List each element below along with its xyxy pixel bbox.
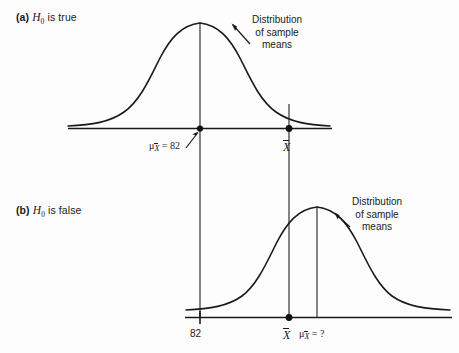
panel-a-label: (a) H0 is true [16,11,77,26]
panel-b-letter: (b) [16,204,30,216]
distribution-callout-arrow-panel-b [335,213,350,227]
statistics-figure: (a) H0 is true (b) H0 is false Distribut… [0,0,459,353]
panel-b-suffix: is false [48,204,81,216]
figure-canvas [0,0,459,353]
panel-a-h: H0 [32,11,44,23]
mu-callout-arrow-panel-a [186,131,199,148]
xbar-glyph-b: X [283,327,290,343]
mu-label-panel-a: μX = 82 [149,140,180,153]
mu-label-panel-b: μX = ? [299,328,324,341]
normal-curve-panel-b [186,207,450,310]
distribution-callout-arrow-panel-a [232,24,250,45]
distribution-annotation-panel-b: Distribution of sample means [352,196,402,234]
mu-subscript-a: X [154,144,159,153]
xbar-point-panel-b [286,314,293,321]
mu-point-panel-a [197,125,203,131]
panel-b-h: H0 [33,204,45,216]
mu-value-b: = ? [312,328,325,339]
mu-value-a: = 82 [162,140,180,151]
annot-b-line3: means [352,221,402,234]
mu-subscript-b: X [304,332,309,341]
annot-a-line1: Distribution [252,14,302,27]
annot-b-line1: Distribution [352,196,402,209]
xbar-label-panel-a: X [283,139,290,155]
annot-b-line2: of sample [352,209,402,222]
panel-a-letter: (a) [16,11,29,23]
xbar-label-panel-b: X [283,327,290,343]
annot-a-line2: of sample [252,27,302,40]
tick-label-82-panel-b: 82 [190,328,201,339]
panel-a-suffix: is true [47,11,76,23]
panel-b-label: (b) H0 is false [16,204,82,219]
annot-a-line3: means [252,39,302,52]
xbar-glyph-a: X [283,139,290,155]
distribution-annotation-panel-a: Distribution of sample means [252,14,302,52]
xbar-point-panel-a [286,125,293,132]
